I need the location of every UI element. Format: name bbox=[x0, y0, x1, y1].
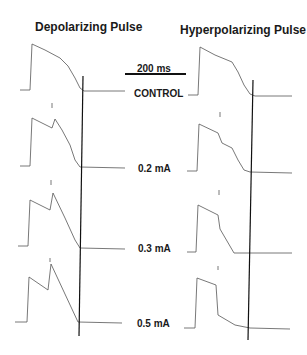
traces-plot bbox=[0, 0, 307, 355]
trace-right-0.2 bbox=[187, 124, 292, 173]
trace-left-0.2 bbox=[20, 118, 125, 168]
reference-line-right bbox=[248, 80, 253, 340]
trace-left-0.3 bbox=[18, 193, 125, 249]
trace-right-0.5 bbox=[184, 278, 290, 329]
trace-right-control bbox=[188, 47, 292, 96]
trace-right-0.3 bbox=[187, 205, 292, 253]
reference-line-left bbox=[79, 76, 83, 336]
trace-left-0.5 bbox=[15, 264, 122, 323]
trace-left-control bbox=[20, 44, 125, 91]
